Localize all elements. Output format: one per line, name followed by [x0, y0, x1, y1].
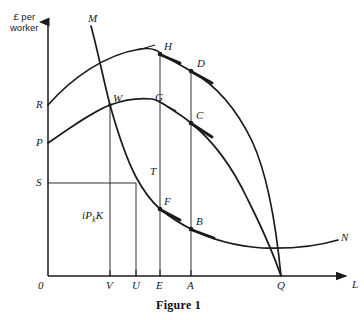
curve-point-label-D: D: [197, 58, 205, 69]
curve-point-label-T: T: [150, 166, 156, 177]
x-point-label-A: A: [187, 280, 194, 291]
area-label-prefix: iP: [82, 209, 92, 221]
curve-end-label-M: M: [88, 13, 97, 24]
x-point-label-Q: Q: [277, 280, 285, 291]
tangent-mark-C: [192, 124, 212, 137]
point-dot-H: [158, 52, 163, 57]
y-axis-label: £ per worker: [10, 12, 39, 34]
curve-end-label-N: N: [341, 232, 349, 243]
x-axis-label: L: [352, 279, 358, 290]
y-point-label-R: R: [36, 99, 43, 110]
y-point-label-P: P: [36, 137, 43, 148]
curve-point-label-F: F: [164, 196, 171, 207]
x-point-label-U: U: [132, 280, 140, 291]
x-point-label-V: V: [106, 280, 113, 291]
point-dot-D: [189, 69, 194, 74]
y-axis-label-line1: £ per: [13, 11, 35, 22]
tangent-mark-B: [192, 230, 214, 238]
figure-container: £ per worker 0 L R P S V U E A Q M N H D…: [0, 0, 364, 320]
curve-point-label-B: B: [196, 216, 203, 227]
curve-point-label-C: C: [196, 110, 204, 121]
economics-diagram: [0, 0, 364, 320]
upper-curve-average-product: [48, 49, 281, 276]
point-dot-F: [158, 207, 163, 212]
middle-curve: [48, 99, 281, 276]
tangent-mark-H: [161, 55, 180, 63]
area-label-capital-cost: iPkK: [82, 210, 103, 224]
y-point-label-S: S: [36, 177, 42, 188]
figure-caption: Figure 1: [156, 298, 201, 313]
area-label-suffix: K: [96, 209, 104, 221]
curve-point-label-H: H: [164, 41, 172, 52]
curve-point-label-W: W: [113, 93, 122, 104]
curve-point-label-G: G: [155, 92, 163, 103]
x-point-label-E: E: [156, 280, 163, 291]
point-dot-W: [108, 103, 112, 107]
point-dot-C: [189, 121, 194, 126]
y-axis-label-line2: worker: [10, 22, 39, 33]
declining-curve-marginal-product: [91, 26, 338, 248]
tangent-mark-F: [161, 210, 180, 220]
point-dot-B: [189, 227, 194, 232]
origin-label: 0: [38, 280, 44, 291]
tangent-mark-D: [192, 72, 212, 83]
